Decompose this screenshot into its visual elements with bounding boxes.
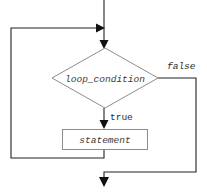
- node-statement: statement: [63, 130, 148, 150]
- edge-label-true: true: [110, 112, 133, 123]
- node-loop-condition: loop_condition: [52, 48, 158, 108]
- edge-entry: [100, 0, 109, 49]
- node-statement-label: statement: [79, 135, 130, 146]
- edge-true-branch-arrowhead-icon: [100, 120, 109, 129]
- edge-false-branch-arrowhead-icon: [99, 177, 109, 187]
- flowchart-diagram: loop_condition statement false true: [0, 0, 207, 192]
- node-loop-condition-label: loop_condition: [65, 74, 145, 85]
- edge-true-branch: [100, 108, 109, 129]
- edge-entry-arrowhead-icon: [100, 40, 109, 49]
- edge-label-false: false: [167, 61, 196, 72]
